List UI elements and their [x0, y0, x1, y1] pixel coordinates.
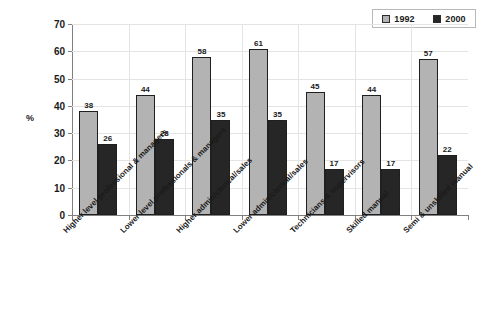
y-axis-tick [68, 160, 72, 161]
bar-value-label: 35 [216, 110, 225, 119]
y-axis-tick-label: 20 [54, 155, 65, 166]
gridline-horizontal [72, 24, 468, 25]
bar-value-label: 22 [443, 145, 452, 154]
y-axis-tick [68, 79, 72, 80]
gridline-vertical [185, 24, 186, 215]
y-axis-tick-label: 30 [54, 128, 65, 139]
x-axis-tick [468, 216, 469, 220]
y-axis-tick [68, 106, 72, 107]
bar-value-label: 38 [84, 101, 93, 110]
y-axis-tick [68, 133, 72, 134]
legend-entry-1992: 1992 [382, 14, 414, 24]
bar-value-label: 44 [141, 85, 150, 94]
legend-label-2000: 2000 [445, 14, 465, 24]
y-axis-tick [68, 188, 72, 189]
y-axis-tick-label: 0 [59, 210, 65, 221]
legend-entry-2000: 2000 [433, 14, 465, 24]
y-axis-tick-label: 60 [54, 46, 65, 57]
gridline-vertical [411, 24, 412, 215]
bar-value-label: 61 [254, 39, 263, 48]
bar-value-label: 44 [367, 85, 376, 94]
gridline-vertical [129, 24, 130, 215]
bar-value-label: 26 [103, 134, 112, 143]
y-axis-tick-label: 70 [54, 19, 65, 30]
legend-swatch-1992 [382, 15, 390, 23]
bar-value-label: 35 [273, 110, 282, 119]
bar-value-label: 45 [311, 82, 320, 91]
gridline-vertical [242, 24, 243, 215]
y-axis-tick [68, 24, 72, 25]
y-axis-title: % [26, 113, 34, 123]
bar-1992-6: 57 [419, 59, 438, 215]
y-axis-tick-label: 10 [54, 182, 65, 193]
gridline-horizontal [72, 51, 468, 52]
bar-value-label: 57 [424, 49, 433, 58]
gridline-vertical [298, 24, 299, 215]
bar-value-label: 17 [330, 159, 339, 168]
bar-value-label: 58 [197, 47, 206, 56]
legend-label-1992: 1992 [394, 14, 414, 24]
y-axis-tick [68, 51, 72, 52]
gridline-horizontal [72, 106, 468, 107]
y-axis-tick-label: 40 [54, 100, 65, 111]
plot-area: 010203040506070 382644285835613545174417… [72, 24, 468, 215]
bar-value-label: 17 [386, 159, 395, 168]
y-axis-tick-label: 50 [54, 73, 65, 84]
bar-1992-2: 58 [192, 57, 211, 215]
legend-swatch-2000 [433, 15, 441, 23]
gridline-vertical [355, 24, 356, 215]
gridline-horizontal [72, 79, 468, 80]
bar-1992-3: 61 [249, 49, 268, 215]
